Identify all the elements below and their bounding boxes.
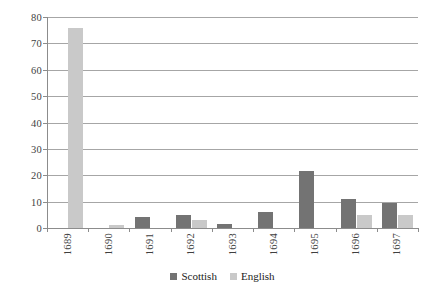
y-axis-tick-label: 0 [2,223,42,234]
bar-scottish-1691 [135,217,150,228]
bar-group [253,17,294,228]
x-axis-tick-label: 1695 [309,233,320,255]
y-axis-tick-label: 80 [2,12,42,23]
x-tickmark [336,228,337,232]
bar-scottish-1692 [176,215,191,228]
bar-group [336,17,377,228]
legend-swatch-icon [230,273,237,280]
legend-item-english[interactable]: English [230,271,275,282]
y-axis-tick-label: 50 [2,91,42,102]
x-axis-tickmarks [47,228,418,232]
x-tickmark [377,228,378,232]
x-tickmark [129,228,130,232]
bar-chart: 01020304050607080 1689169016911692169316… [0,0,445,294]
x-tickmark [294,228,295,232]
y-axis-tick-label: 10 [2,196,42,207]
x-axis-tick-label: 1694 [268,233,279,255]
x-axis-tick-label: 1690 [103,233,114,255]
x-tickmark [88,228,89,232]
x-axis-tick-label: 1697 [391,233,402,255]
chart-legend: ScottishEnglish [0,271,445,282]
legend-label: Scottish [181,271,216,282]
y-axis-tick-label: 40 [2,117,42,128]
x-axis-tick-label: 1692 [185,233,196,255]
x-axis-tick-label: 1691 [144,233,155,255]
x-tickmark [418,228,419,232]
x-tickmark [171,228,172,232]
y-axis-tick-label: 60 [2,64,42,75]
bar-group [212,17,253,228]
bar-group [47,17,88,228]
x-axis-tick-label: 1693 [227,233,238,255]
bar-group [171,17,212,228]
bar-scottish-1694 [258,212,273,228]
bar-english-1692 [192,220,207,228]
x-tickmark [47,228,48,232]
bar-group [88,17,129,228]
bar-group [377,17,418,228]
bar-scottish-1695 [299,171,314,228]
bar-scottish-1697 [382,203,397,228]
legend-label: English [241,271,275,282]
y-axis-tick-label: 30 [2,143,42,154]
x-tickmark [253,228,254,232]
y-axis-labels: 01020304050607080 [0,17,42,228]
bar-group [129,17,170,228]
x-tickmark [212,228,213,232]
bar-group [294,17,335,228]
x-axis-labels: 168916901691169216931694169516961697 [47,233,418,269]
legend-item-scottish[interactable]: Scottish [170,271,216,282]
legend-swatch-icon [170,273,177,280]
y-axis-tick-label: 70 [2,38,42,49]
bars-layer [47,17,418,228]
y-axis-tick-label: 20 [2,170,42,181]
x-axis-tick-label: 1696 [350,233,361,255]
bar-english-1689 [68,28,83,228]
bar-scottish-1696 [341,199,356,228]
bar-english-1697 [398,215,413,228]
bar-english-1696 [357,215,372,228]
x-axis-tick-label: 1689 [62,233,73,255]
